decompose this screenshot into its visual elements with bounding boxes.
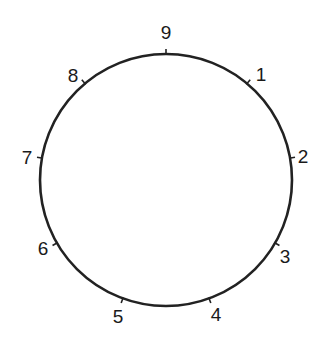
point-label-6: 6 bbox=[38, 238, 49, 259]
circle-outline bbox=[40, 54, 292, 306]
circle-diagram: 9 1 2 3 4 5 6 7 8 bbox=[0, 0, 327, 350]
point-labels: 9 1 2 3 4 5 6 7 8 bbox=[22, 22, 309, 327]
tick-mark-2 bbox=[289, 157, 295, 158]
point-label-9: 9 bbox=[161, 22, 172, 43]
point-label-4: 4 bbox=[211, 304, 222, 325]
point-label-5: 5 bbox=[113, 306, 124, 327]
tick-mark-7 bbox=[37, 157, 43, 158]
point-label-3: 3 bbox=[280, 246, 291, 267]
point-label-8: 8 bbox=[68, 65, 79, 86]
point-label-7: 7 bbox=[22, 147, 33, 168]
tick-marks bbox=[37, 49, 295, 303]
point-label-2: 2 bbox=[298, 146, 309, 167]
point-label-1: 1 bbox=[256, 64, 267, 85]
